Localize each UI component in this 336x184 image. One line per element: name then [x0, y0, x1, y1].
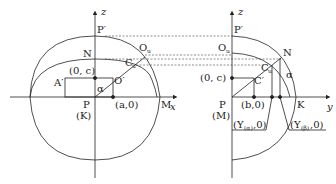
right-z-label: z [237, 6, 244, 17]
svg-text:u: u [132, 62, 136, 69]
svg-text:u: u [226, 47, 230, 54]
left-point-0c [93, 76, 96, 79]
right-label-k: K [297, 99, 305, 110]
svg-text:(Y: (Y [233, 119, 244, 130]
left-rectangle [65, 78, 113, 97]
svg-text:(α): (α) [244, 124, 253, 131]
right-label-m: (M) [212, 110, 230, 121]
right-y-label: y [326, 101, 333, 112]
svg-text:u: u [268, 67, 272, 74]
left-diagram [10, 13, 175, 178]
left-label-p: P [83, 99, 90, 110]
left-label-alpha: α [97, 83, 104, 94]
svg-text:(Y: (Y [290, 119, 301, 130]
left-label-o-prime: O′ [114, 75, 125, 86]
right-label-alpha: α [286, 69, 293, 80]
right-label-c-prime: C′ [254, 75, 265, 86]
left-label-o-u: O [139, 42, 147, 53]
left-label-a0: (a,0) [115, 99, 138, 110]
right-label-b0: (b,0) [241, 99, 265, 110]
right-label-p: P [219, 99, 226, 110]
left-label-k: (K) [76, 110, 91, 121]
left-label-a-prime: A′ [53, 77, 64, 88]
right-label-0c: (0, c) [200, 72, 226, 83]
left-label-m: M [161, 99, 171, 110]
right-diagram [230, 13, 328, 178]
left-label-n: N [83, 48, 92, 59]
svg-text:,0): ,0) [253, 119, 267, 130]
projection-diagram: z x P′ N O u C u (0, c) A′ O′ α P (K) (a… [0, 0, 336, 184]
svg-text:(β): (β) [301, 124, 309, 132]
svg-text:,0): ,0) [310, 119, 324, 130]
left-label-0c: (0, c) [69, 65, 95, 76]
right-label-y-alpha: (Y (α) ,0) [233, 119, 267, 131]
left-label-p-prime: P′ [97, 24, 107, 35]
svg-text:u: u [147, 47, 151, 54]
right-label-n: N [283, 47, 292, 58]
right-label-p-prime: P′ [234, 24, 244, 35]
right-label-o-u: O [218, 42, 226, 53]
left-z-label: z [100, 6, 107, 17]
